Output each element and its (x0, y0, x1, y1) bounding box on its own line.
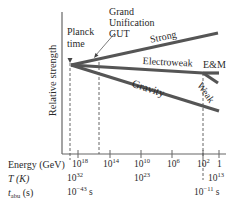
temperature-row-label: T (K) (8, 173, 29, 184)
energy-tick-1e14: 1014 (103, 159, 119, 170)
gut-label-line1: Grand (109, 6, 134, 17)
gut-label-line2: Unification (109, 17, 155, 28)
energy-tick-1e2: 102 (197, 159, 210, 170)
temperature-value-1e23: 1023 (134, 173, 150, 184)
y-axis-label: Relative strength (47, 31, 58, 131)
gut-label-line3: GUT (109, 28, 130, 39)
time-value-1e-43: 10−43 s (67, 187, 93, 198)
time-row-label: tabu (s) (8, 187, 33, 198)
temperature-value-1e13: 1013 (208, 173, 224, 184)
planck-arrow-icon (68, 58, 73, 63)
energy-tick-1e18: 1018 (72, 159, 88, 170)
energy-tick-1: 1 (217, 159, 222, 170)
planck-label-line2: time (67, 38, 85, 49)
time-value-1e-11: 10−11 s (194, 187, 220, 198)
energy-tick-1e10: 1010 (134, 159, 150, 170)
gut-arrow-icon (94, 53, 99, 58)
em-label: E&M (203, 59, 226, 70)
energy-row-label: Energy (GeV) (8, 159, 65, 170)
temperature-value-1e32: 1032 (67, 173, 83, 184)
planck-label-line1: Planck (67, 26, 94, 37)
energy-tick-1e6: 106 (167, 159, 180, 170)
